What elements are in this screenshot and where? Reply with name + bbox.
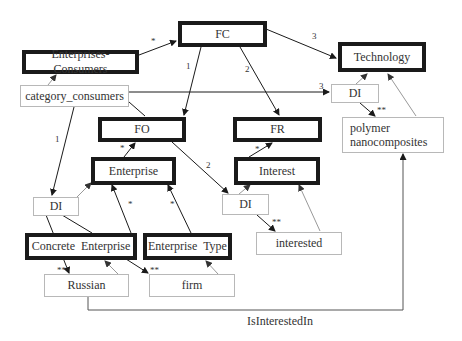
edge-label-di-int-interested: ** — [272, 217, 281, 227]
node-technology[interactable]: Technology — [338, 42, 426, 72]
edge-label-fo-di-int: 2 — [206, 160, 211, 170]
node-label: DI — [239, 197, 252, 212]
node-interested[interactable]: interested — [256, 232, 342, 255]
edge-label-fc-fo: 1 — [186, 61, 191, 71]
node-label: FR — [270, 122, 285, 137]
edge-label-ce-firm: ** — [150, 265, 159, 275]
node-polymer-nanocomposites[interactable]: polymer nanocomposites — [342, 117, 444, 153]
node-russian[interactable]: Russian — [44, 274, 129, 297]
node-label: Enterprise Type — [148, 239, 227, 254]
node-enterprise-type[interactable]: Enterprise Type — [143, 233, 232, 260]
edge-label-cat-di-ent: 1 — [55, 134, 60, 144]
edge-label-fc-tech: 3 — [312, 31, 317, 41]
edge-label-fc-fr: 2 — [245, 64, 250, 74]
node-label: FC — [215, 27, 230, 42]
node-label: Enterprise — [109, 164, 158, 179]
node-label: DI — [50, 199, 63, 214]
edge-label-int-fr: * — [255, 144, 260, 154]
edge-label-ce-ent: * — [128, 199, 133, 209]
relation-caption: IsInterestedIn — [247, 314, 313, 329]
node-enterprises-consumers[interactable]: Enterprises-Consumers — [22, 50, 139, 74]
node-enterprise[interactable]: Enterprise — [91, 157, 176, 185]
node-label: Technology — [354, 50, 410, 65]
node-label: Russian — [67, 278, 105, 293]
edge-label-cat-di-tech: 3 — [319, 81, 324, 91]
node-di-technology[interactable]: DI — [331, 84, 379, 103]
node-fo[interactable]: FO — [98, 117, 186, 142]
node-label: Enterprises-Consumers — [26, 47, 135, 77]
node-fc[interactable]: FC — [178, 21, 267, 47]
node-label: interested — [276, 236, 323, 251]
node-di-enterprise[interactable]: DI — [33, 197, 79, 216]
node-fr[interactable]: FR — [233, 117, 322, 142]
node-label: DI — [349, 86, 362, 101]
edge-label-et-ent: * — [170, 199, 175, 209]
node-di-interest[interactable]: DI — [222, 194, 269, 215]
edge-label-di-ent-russian: ** — [57, 265, 66, 275]
node-label: firm — [182, 278, 203, 293]
node-label: category_consumers — [25, 89, 124, 104]
edge-label-ec-fc: * — [151, 36, 156, 46]
node-label: Interest — [259, 164, 295, 179]
node-label: Concrete Enterprise — [32, 239, 131, 254]
node-label: FO — [134, 122, 149, 137]
node-category-consumers[interactable]: category_consumers — [20, 85, 129, 107]
node-firm[interactable]: firm — [149, 274, 235, 297]
node-concrete-enterprise[interactable]: Concrete Enterprise — [25, 233, 137, 260]
edge-label-ent-fo: * — [120, 143, 125, 153]
node-label: polymer nanocomposites — [350, 121, 420, 149]
edge-label-di-tech-poly: ** — [377, 105, 386, 115]
node-interest[interactable]: Interest — [234, 157, 320, 185]
